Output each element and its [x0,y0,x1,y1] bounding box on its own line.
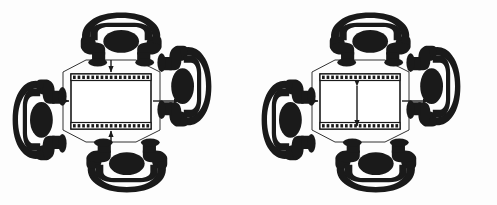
film-frame [71,74,151,129]
film-frame [320,74,400,129]
diagram-panel-right: Right diagram [249,0,497,205]
diagram-panel-left: Left diagram [0,0,248,205]
figure-root: Two circular seating arrangement diagram… [0,0,497,205]
